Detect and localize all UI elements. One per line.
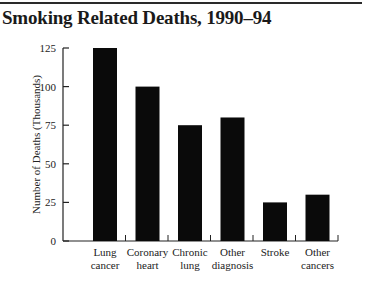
bar-coronary-heart [136, 87, 160, 241]
y-tick-label: 75 [45, 119, 57, 131]
x-category-label: diagnosis [212, 259, 254, 271]
bar-other-diagnosis [221, 117, 245, 241]
bar-other-cancers [306, 195, 330, 241]
y-tick-label: 25 [45, 196, 57, 208]
x-category-label: cancer [91, 259, 120, 271]
x-category-label: heart [137, 259, 159, 271]
y-tick-label: 100 [40, 81, 57, 93]
x-category-label: Lung [93, 246, 117, 258]
y-axis-title: Number of Deaths (Thousands) [30, 75, 43, 214]
x-category-label: lung [180, 259, 200, 271]
x-category-label: Coronary [127, 246, 169, 258]
x-category-label: Chronic [172, 246, 208, 258]
x-category-label: cancers [301, 259, 334, 271]
y-tick-label: 50 [45, 158, 57, 170]
bar-stroke [263, 202, 287, 241]
y-tick-label: 125 [40, 42, 57, 54]
y-tick-label: 0 [51, 235, 57, 247]
bar-chart: 0255075100125Number of Deaths (Thousands… [0, 0, 370, 292]
x-category-label: Other [220, 246, 245, 258]
bar-chronic-lung [178, 125, 202, 241]
x-category-label: Other [305, 246, 330, 258]
bar-lung-cancer [93, 48, 117, 241]
x-category-label: Stroke [261, 246, 290, 258]
